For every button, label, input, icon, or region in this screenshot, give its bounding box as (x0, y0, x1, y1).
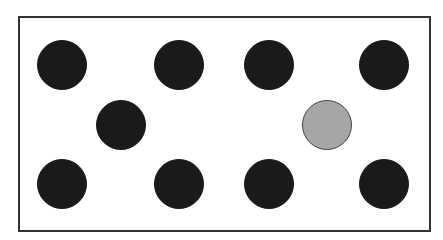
black-circle (154, 40, 204, 90)
black-circle (37, 40, 87, 90)
black-circle (359, 40, 409, 90)
gray-circle (302, 100, 352, 150)
black-circle (154, 159, 204, 209)
black-circle (37, 159, 87, 209)
black-circle (244, 40, 294, 90)
black-circle (96, 100, 146, 150)
black-circle (244, 159, 294, 209)
black-circle (359, 159, 409, 209)
